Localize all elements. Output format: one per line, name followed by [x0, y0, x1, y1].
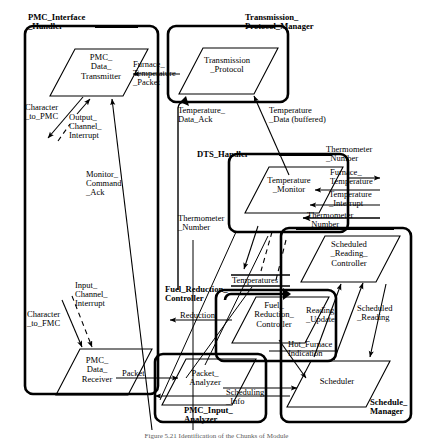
process-label-pmc-data-receiver: PMC_ Data_ Receiver — [66, 356, 128, 384]
process-label-packet-analyzer: Packet_ Analyzer — [174, 369, 236, 388]
flow-label-temperature-data-buffered: Temperature _Data (buffered) — [269, 106, 326, 124]
flow-character-to-fmc-leader — [58, 323, 78, 347]
diagram-canvas: PMC_Interface _Handler Transmission_ Pro… — [0, 0, 433, 445]
flow-label-reading-update: Reading _Update — [306, 306, 335, 324]
flow-label-furnace-temperature: Furnace_ Temperature — [330, 168, 373, 186]
flow-label-furnace-temperature-packet: Furnace_ Temperature _Packet — [133, 60, 176, 88]
flow-label-monitor-command-ack: Monitor_ Command _Ack — [86, 170, 121, 198]
subsystem-label-pmc-input-analyzer: PMC_Input_ Analyzer — [184, 406, 233, 425]
flow-label-temperatures: Temperatures — [232, 276, 278, 285]
flow-label-temperature-interrupt: Temperature _Interrupt — [329, 190, 372, 208]
subsystem-label-fuel-reduction-controller: Fuel_Reduction_ Controller — [165, 285, 228, 304]
process-label-fuel-reduction-controller: Fuel_ Reduction_ Controller — [244, 301, 304, 329]
subsystem-label-pmc-interface-handler: PMC_Interface _Handler — [28, 13, 85, 32]
flow-label-scheduling-info: Scheduling _Info — [226, 388, 264, 406]
flow-label-packet: Packet — [122, 369, 145, 378]
subsystem-label-transmission-protocol-manager: Transmission_ Protocol_Manager — [245, 13, 314, 32]
process-label-transmission-protocol: Transmission _Protocol — [192, 56, 262, 75]
flow-label-output-channel-interrupt: Output_ Channel_ Interrupt — [69, 113, 102, 141]
flow-label-hot-furnace-indication: Hot_Furnace Indication — [288, 340, 332, 358]
flow-label-thermometer-number-top: Thermometer _Number — [326, 145, 372, 163]
process-label-pmc-data-transmitter: PMC_ Data_ Transmitter — [70, 53, 132, 81]
flow-label-thermometer-number-left: Thermometer _Number — [178, 214, 224, 232]
flow-temperature-data-ack-path — [178, 102, 193, 290]
subsystem-label-schedule-manager: Schedule_ Manager — [370, 398, 407, 417]
process-label-temperature-monitor: Temperature _Monitor — [255, 176, 323, 195]
flow-temperatures-dash-a — [261, 232, 272, 271]
process-label-scheduler: Scheduler — [307, 377, 367, 386]
subsystem-label-dts-handler: DTS_Handler — [197, 150, 249, 159]
figure-caption: Figure 5.21 Identification of the Chunks… — [0, 432, 433, 445]
flow-label-character-to-pmc: Character _to_PMC — [25, 103, 58, 121]
flow-label-temperature-data-ack: Temperature_ Data_Ack — [178, 106, 225, 124]
flow-label-character-to-fmc: Character _to_FMC — [27, 310, 60, 328]
process-label-scheduled-reading-controller: Scheduled _Reading_ Controller — [318, 240, 380, 268]
flow-label-reduction: Reduction — [180, 311, 215, 320]
flow-label-scheduled-reading: Scheduled _Reading — [357, 304, 392, 322]
flow-label-thermometer-number-mid: Thermometer _Number — [307, 211, 353, 229]
flow-label-input-channel-interrupt: Input_ Channel_ Interrupt — [75, 281, 108, 309]
